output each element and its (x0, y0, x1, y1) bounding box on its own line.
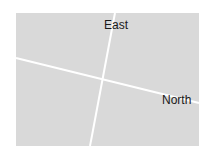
north-label: North (162, 93, 191, 107)
east-label: East (104, 18, 129, 32)
compass-diagram: East North (0, 0, 212, 155)
